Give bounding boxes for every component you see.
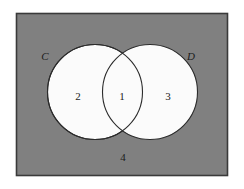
set-label-d: D	[186, 50, 195, 62]
region-label-outside: 4	[120, 151, 126, 163]
region-label-c-only: 2	[75, 90, 81, 102]
region-label-d-only: 3	[165, 90, 171, 102]
region-label-intersection: 1	[119, 90, 125, 102]
set-label-c: C	[41, 50, 49, 62]
venn-diagram-canvas: C D 2 1 3 4	[0, 0, 244, 189]
set-circle-d	[103, 45, 198, 140]
venn-diagram-figure: C D 2 1 3 4	[0, 0, 244, 189]
